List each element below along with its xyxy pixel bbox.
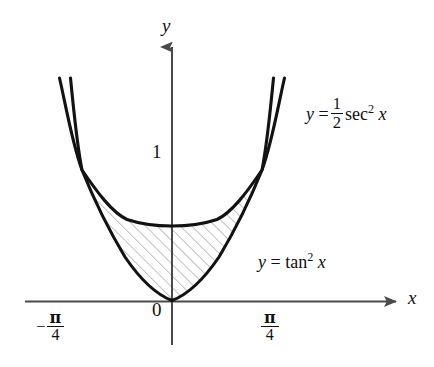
x-tick-label-neg-pi-over-4: −π4	[36, 310, 64, 344]
equals-sign: =	[271, 252, 281, 272]
origin-label: 0	[152, 300, 162, 319]
math-figure: y x 1 0 −π4 π4 y =12sec2 x y = tan2 x	[0, 0, 434, 367]
equation-lhs: y	[258, 252, 266, 272]
function-name-sec: sec	[345, 104, 368, 124]
fraction-denominator: 4	[261, 326, 279, 344]
x-axis-label: x	[408, 288, 416, 307]
exponent: 2	[307, 250, 313, 264]
y-axis-label: y	[162, 16, 170, 35]
equals-sign: =	[319, 104, 329, 124]
minus-sign: −	[36, 318, 46, 335]
curve-label-half-sec-squared: y =12sec2 x	[306, 96, 387, 131]
fraction-pi-over-4: π4	[47, 310, 65, 344]
plot-canvas	[0, 0, 434, 367]
fraction-pi-over-4: π4	[261, 310, 279, 344]
fraction-numerator: π	[47, 310, 65, 326]
fraction-denominator: 4	[47, 326, 65, 344]
variable: x	[318, 252, 326, 272]
x-tick-label-pi-over-4: π4	[261, 310, 279, 344]
coefficient-one-half: 12	[331, 96, 343, 131]
variable: x	[379, 104, 387, 124]
exponent: 2	[368, 102, 374, 116]
equation-lhs: y	[306, 104, 314, 124]
fraction-denominator: 2	[331, 113, 343, 131]
y-tick-label-1: 1	[152, 142, 162, 161]
fraction-numerator: π	[261, 310, 279, 326]
curve-label-tan-squared: y = tan2 x	[258, 251, 326, 271]
fraction-numerator: 1	[331, 96, 343, 113]
function-name-tan: tan	[285, 252, 307, 272]
